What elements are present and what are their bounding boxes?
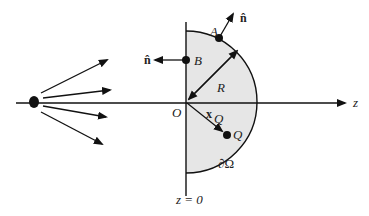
source-point (29, 96, 39, 108)
label-position-vector: x (206, 107, 212, 121)
label-a: A (209, 24, 218, 39)
label-plane: z = 0 (175, 192, 203, 207)
label-b: B (194, 53, 202, 68)
label-boundary: ∂Ω (218, 156, 234, 171)
point-q (223, 131, 231, 139)
label-normal-a: n̂ (240, 11, 247, 25)
label-q: Q (233, 127, 243, 142)
normal-a-arrow (219, 14, 233, 38)
label-z-axis: z (352, 95, 358, 110)
label-origin: O (172, 105, 182, 120)
source-ray-1 (41, 60, 107, 93)
source-ray-3 (43, 106, 106, 117)
label-radius: R (216, 80, 225, 95)
source-ray-2 (43, 90, 110, 98)
label-normal-b: n̂ (144, 53, 151, 67)
diagram-canvas: A n̂ B n̂ R O x Q Q ∂Ω z z = 0 (0, 0, 369, 216)
source-ray-4 (41, 112, 102, 144)
label-position-subscript: Q (214, 111, 224, 126)
